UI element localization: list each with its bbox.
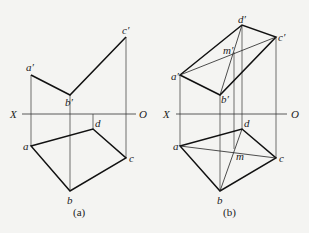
point-label-c-b: c: [279, 152, 284, 164]
point-label-d-prime-b: d′: [238, 13, 247, 25]
point-label-b-prime: b′: [65, 96, 74, 108]
point-label-m-prime-b: m′: [223, 44, 234, 56]
projection-diagram: X O a′ b′ c′ a b c d (a): [0, 0, 309, 233]
top-view-polygon-a: [31, 129, 126, 191]
point-label-c-prime: c′: [122, 24, 130, 36]
front-view-polyline-a: [31, 37, 126, 95]
point-label-b: b: [67, 194, 73, 206]
figure-b: X O a′ b′ c′ d′ m: [162, 13, 299, 219]
point-label-b-b: b: [217, 194, 223, 206]
top-view-polygon-b: [180, 129, 276, 191]
point-label-a-prime-b: a′: [171, 70, 180, 82]
point-label-c-prime-b: c′: [278, 31, 286, 43]
point-label-d: d: [95, 117, 101, 129]
point-label-d-b: d: [244, 117, 250, 129]
point-label-a-prime: a′: [26, 61, 35, 73]
diagram-svg: X O a′ b′ c′ a b c d (a): [0, 0, 309, 233]
front-view-polygon-b: [180, 25, 276, 95]
axis-label-o-a: O: [139, 108, 147, 120]
point-label-m-b: m: [236, 150, 244, 162]
figure-a: X O a′ b′ c′ a b c d (a): [9, 24, 147, 219]
top-diagonal-ac: [180, 146, 276, 158]
axis-label-x-b: X: [162, 108, 171, 120]
axis-label-o-b: O: [291, 108, 299, 120]
caption-b: (b): [223, 206, 236, 219]
axis-label-x-a: X: [9, 108, 18, 120]
point-label-a-b: a: [173, 140, 179, 152]
point-label-c: c: [129, 152, 134, 164]
point-label-b-prime-b: b′: [221, 93, 230, 105]
caption-a: (a): [73, 206, 86, 219]
point-label-a: a: [23, 140, 29, 152]
